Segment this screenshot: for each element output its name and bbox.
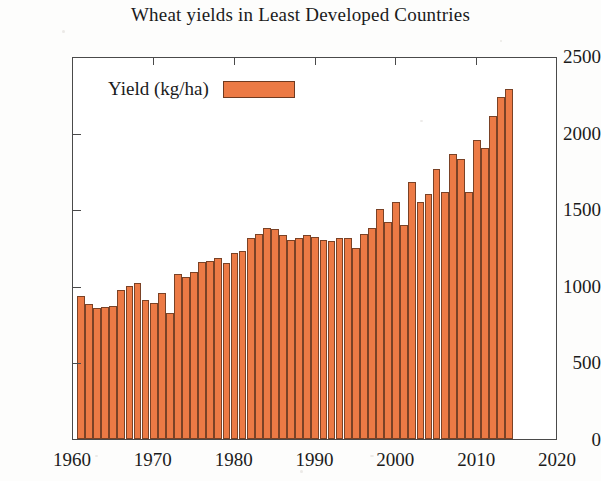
bar: [198, 262, 206, 439]
bar: [497, 97, 505, 439]
bar-series-yield: [73, 58, 556, 439]
scan-artifact: [370, 455, 374, 457]
x-axis-tick-label: 2010: [457, 449, 495, 471]
bar: [360, 234, 368, 439]
x-axis-tick-label: 1980: [215, 449, 253, 471]
bar: [206, 261, 214, 439]
bar: [231, 253, 239, 439]
bar: [247, 238, 255, 439]
bar: [150, 303, 158, 439]
bar: [101, 307, 109, 439]
bar: [392, 202, 400, 439]
bar: [142, 300, 150, 439]
x-axis-tick-mark-top: [476, 57, 477, 65]
chart-title: Wheat yields in Least Developed Countrie…: [0, 4, 601, 26]
bar: [158, 293, 166, 439]
bar: [384, 222, 392, 439]
y-axis-tick-label: 500: [539, 352, 601, 374]
legend-swatch-yield: [223, 81, 295, 98]
x-axis-tick-mark-top: [315, 57, 316, 65]
bar: [400, 225, 408, 439]
bar: [328, 241, 336, 439]
bar: [214, 258, 222, 439]
bar: [295, 238, 303, 439]
bar: [134, 283, 142, 439]
bar: [441, 192, 449, 439]
bar: [223, 263, 231, 439]
bar: [255, 234, 263, 439]
bar: [344, 238, 352, 439]
bar: [408, 182, 416, 439]
bar: [465, 192, 473, 439]
bar: [473, 140, 481, 439]
bar: [505, 89, 513, 439]
plot-area: [72, 57, 557, 440]
bar: [263, 228, 271, 439]
x-axis-tick-mark-top: [234, 57, 235, 65]
y-axis-tick-mark: [72, 210, 81, 211]
scan-artifact: [150, 462, 154, 464]
chart-figure: Wheat yields in Least Developed Countrie…: [0, 0, 601, 481]
bar: [433, 169, 441, 439]
bar: [457, 159, 465, 439]
y-axis-tick-label: 2000: [539, 123, 601, 145]
y-axis-tick-mark: [72, 134, 81, 135]
chart-legend: Yield (kg/ha): [108, 78, 295, 100]
bar: [117, 290, 125, 439]
scan-artifact: [62, 30, 65, 33]
bar: [77, 296, 85, 439]
bar: [336, 238, 344, 439]
bar: [311, 237, 319, 439]
bar: [481, 148, 489, 439]
bar: [174, 274, 182, 439]
bar: [182, 277, 190, 439]
bar: [239, 251, 247, 439]
bar: [126, 286, 134, 439]
legend-label-yield: Yield (kg/ha): [108, 78, 209, 100]
y-axis-tick-mark: [72, 287, 81, 288]
scan-artifact: [95, 455, 98, 457]
bar: [352, 248, 360, 440]
y-axis-tick-label: 2500: [539, 46, 601, 68]
bar: [376, 209, 384, 439]
scan-artifact: [420, 120, 423, 122]
bar: [166, 313, 174, 439]
bar: [449, 154, 457, 439]
x-axis-tick-label: 2000: [376, 449, 414, 471]
bar: [85, 304, 93, 439]
bar: [417, 202, 425, 439]
bar: [303, 235, 311, 439]
x-axis-tick-label: 2020: [538, 449, 576, 471]
bar: [109, 306, 117, 439]
x-axis-tick-label: 1960: [53, 449, 91, 471]
x-axis-tick-mark-top: [153, 57, 154, 65]
x-axis-tick-label: 1970: [134, 449, 172, 471]
y-axis-tick-label: 1000: [539, 276, 601, 298]
scan-artifact: [500, 40, 502, 42]
bar: [190, 272, 198, 439]
y-axis-tick-label: 1500: [539, 199, 601, 221]
bar: [93, 308, 101, 439]
bar: [287, 240, 295, 439]
x-axis-tick-mark-top: [395, 57, 396, 65]
bar: [271, 229, 279, 439]
x-axis-tick-label: 1990: [296, 449, 334, 471]
bar: [368, 228, 376, 439]
scan-artifact: [300, 470, 303, 473]
y-axis-tick-mark: [72, 57, 81, 58]
y-axis-tick-mark: [72, 363, 81, 364]
bar: [489, 116, 497, 439]
bar: [320, 240, 328, 439]
y-axis-tick-label: 0: [539, 429, 601, 451]
bar: [279, 235, 287, 439]
bar: [425, 194, 433, 439]
